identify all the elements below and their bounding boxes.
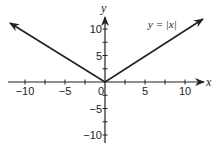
x-tick-label: −5 bbox=[59, 85, 72, 97]
function-label: y = |x| bbox=[147, 18, 177, 30]
x-tick-label: 0 bbox=[98, 85, 104, 97]
y-axis-label: y bbox=[100, 1, 107, 15]
axes bbox=[8, 17, 204, 143]
x-tick-label: −10 bbox=[16, 85, 35, 97]
absolute-value-graph: −10−50510105−5−10 x y y = |x| bbox=[0, 0, 215, 146]
y-tick-label: 10 bbox=[90, 23, 102, 35]
x-axis-label: x bbox=[205, 75, 212, 89]
y-tick-label: −5 bbox=[89, 103, 102, 115]
y-tick-label: 5 bbox=[96, 50, 102, 62]
x-tick-label: 10 bbox=[179, 85, 191, 97]
x-tick-label: 5 bbox=[142, 85, 148, 97]
y-tick-label: −10 bbox=[83, 129, 102, 141]
